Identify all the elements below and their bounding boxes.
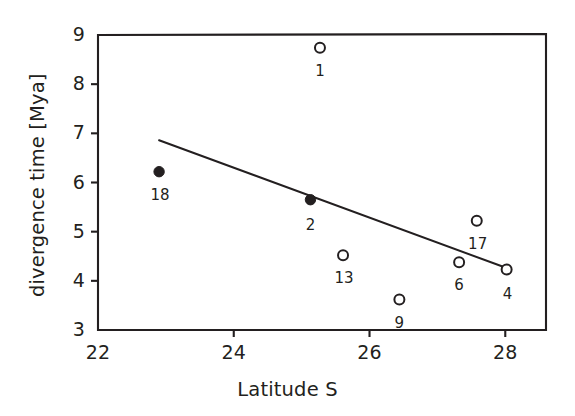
y-tick-label: 6: [59, 173, 85, 192]
data-point-markers: [154, 43, 512, 305]
y-axis-title: divergence time [Mya]: [26, 73, 49, 297]
figure-container: 3456789 22242628 11821713649 divergence …: [0, 0, 575, 416]
point-label: 13: [329, 271, 359, 286]
x-tick-label: 22: [78, 343, 118, 362]
point-label: 2: [295, 218, 325, 233]
point-label: 1: [305, 64, 335, 79]
x-tick-label: 26: [350, 343, 390, 362]
point-label: 9: [384, 316, 414, 331]
y-tick-label: 7: [59, 123, 85, 142]
x-axis-title: Latitude S: [0, 378, 575, 401]
x-tick-label: 24: [214, 343, 254, 362]
point-label: 17: [463, 237, 493, 252]
axis-ticks: [91, 84, 505, 337]
point-label: 4: [493, 287, 523, 302]
point-label: 18: [145, 188, 175, 203]
y-tick-label: 4: [59, 271, 85, 290]
y-tick-label: 8: [59, 74, 85, 93]
point-label: 6: [444, 278, 474, 293]
x-tick-label: 28: [485, 343, 525, 362]
trendline: [159, 140, 507, 268]
y-tick-label: 5: [59, 222, 85, 241]
y-tick-label: 9: [59, 25, 85, 44]
y-tick-label: 3: [59, 320, 85, 339]
